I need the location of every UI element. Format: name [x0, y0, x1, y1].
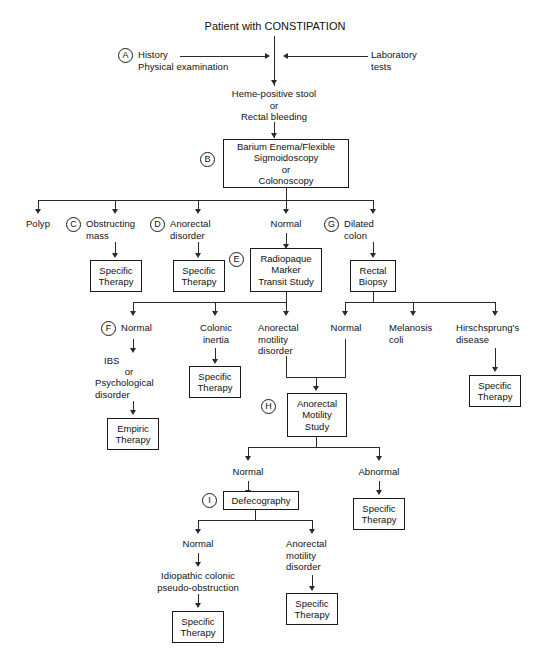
arrow-h-normal-down-icon — [245, 456, 251, 461]
node-idiopathic-colonic: Idiopathic colonic pseudo-obstruction — [138, 570, 258, 593]
arrow-idiopathic-down-icon — [195, 562, 201, 567]
box-barium-enema: Barium Enema/Flexible Sigmoidoscopy or C… — [223, 139, 349, 188]
marker-i-icon: I — [202, 493, 217, 508]
node-obstructing-mass: Obstructing mass — [86, 218, 156, 241]
arrow-c-box-down-icon — [112, 253, 118, 258]
arrow-abnormal-therapy-down-icon — [376, 490, 382, 495]
node-or: or — [114, 366, 144, 378]
node-normal-f: Normal — [121, 322, 181, 334]
node-hirschsprung: Hirschsprung's disease — [456, 322, 541, 345]
node-heme-positive: Heme-positive stool or Rectal bleeding — [209, 88, 339, 123]
arrow-idio-therapy-down-icon — [195, 603, 201, 608]
node-normal-biopsy: Normal — [317, 322, 375, 334]
marker-h-icon: H — [261, 399, 276, 414]
arrow-c-down-icon — [112, 209, 118, 214]
box-specific-therapy-c: Specific Therapy — [90, 260, 142, 292]
box-radiopaque-marker: Radiopaque Marker Transit Study — [250, 248, 322, 292]
arrow-d-down-icon — [195, 209, 201, 214]
arrow-biopsy-normal-down-icon — [342, 311, 348, 316]
node-colonic-inertia: Colonic inertia — [185, 322, 247, 345]
connector-normalbiopsy-down-merge — [345, 339, 346, 378]
box-defecography: Defecography — [223, 491, 299, 510]
arrow-i-normal-down-icon — [195, 529, 201, 534]
box-empiric-therapy: Empiric Therapy — [107, 418, 159, 450]
arrow-lab-left-icon — [283, 53, 288, 59]
connector-branch-bar-1 — [38, 200, 373, 201]
box-specific-therapy-amd: Specific Therapy — [286, 593, 338, 625]
node-anorectal-motility-disorder: Anorectal motility disorder — [258, 322, 320, 357]
marker-b-icon: B — [200, 152, 215, 167]
connector-lab-horizontal — [288, 56, 368, 57]
flowchart-canvas: Patient with CONSTIPATION A History Phys… — [0, 0, 547, 662]
node-dilated-colon: Dilated colon — [344, 218, 404, 241]
arrow-hirsch-therapy-down-icon — [492, 367, 498, 372]
arrow-g-biopsy-down-icon — [370, 253, 376, 258]
arrow-title-down-icon — [271, 80, 277, 85]
arrow-polyp-down-icon — [35, 209, 41, 214]
box-specific-therapy-abnormal: Specific Therapy — [353, 498, 405, 530]
box-specific-therapy-inertia: Specific Therapy — [189, 366, 241, 398]
node-normal-top: Normal — [256, 218, 316, 230]
connector-amd-down-merge — [286, 356, 287, 378]
node-history: History Physical examination — [138, 49, 258, 72]
arrow-i-amd-down-icon — [309, 529, 315, 534]
arrow-heme-down-icon — [271, 133, 277, 138]
marker-d-icon: D — [150, 217, 165, 232]
connector-branch-bar-5 — [198, 520, 312, 521]
box-rectal-biopsy: Rectal Biopsy — [350, 260, 396, 292]
page-title: Patient with CONSTIPATION — [180, 20, 370, 33]
arrow-f-ibs-down-icon — [130, 348, 136, 353]
node-anorectal-disorder: Anorectal disorder — [170, 218, 240, 241]
arrow-empiric-down-icon — [130, 410, 136, 415]
arrow-amd-down-icon — [283, 311, 289, 316]
arrow-hirsch-down-icon — [492, 311, 498, 316]
node-laboratory-tests: Laboratory tests — [371, 49, 451, 72]
marker-g-icon: G — [324, 217, 339, 232]
marker-a-icon: A — [118, 48, 133, 63]
arrow-d-box-down-icon — [195, 253, 201, 258]
box-specific-therapy-d: Specific Therapy — [173, 260, 225, 292]
node-anorectal-motility-disorder-i: Anorectal motility disorder — [286, 538, 348, 573]
node-ibs: IBS — [104, 355, 144, 367]
connector-branch-bar-4 — [248, 447, 379, 448]
node-abnormal-h: Abnormal — [349, 466, 409, 478]
marker-e-icon: E — [229, 252, 244, 267]
arrow-f-down-icon — [130, 311, 136, 316]
box-specific-therapy-hirsch: Specific Therapy — [469, 375, 521, 407]
arrow-melanosis-down-icon — [410, 311, 416, 316]
arrow-inertia-down-icon — [212, 311, 218, 316]
arrow-inertia-therapy-down-icon — [212, 359, 218, 364]
arrow-amdi-therapy-down-icon — [309, 586, 315, 591]
arrow-history-right-icon — [265, 53, 270, 59]
node-melanosis-coli: Melanosis coli — [389, 322, 451, 345]
marker-c-icon: C — [66, 217, 81, 232]
node-polyp: Polyp — [8, 218, 68, 230]
arrow-g-down-icon — [370, 209, 376, 214]
node-normal-i: Normal — [168, 538, 228, 550]
node-normal-h: Normal — [218, 466, 278, 478]
node-psychological-disorder: Psychological disorder — [95, 377, 175, 400]
connector-title-spine — [274, 36, 275, 86]
box-specific-therapy-idiopathic: Specific Therapy — [172, 611, 224, 643]
box-anorectal-motility-study: Anorectal Motility Study — [287, 393, 347, 437]
arrow-normal-top-down-icon — [283, 209, 289, 214]
marker-f-icon: F — [101, 321, 116, 336]
connector-history-horizontal — [180, 56, 265, 57]
connector-branch-bar-2 — [133, 302, 286, 303]
arrow-h-abnormal-down-icon — [376, 456, 382, 461]
connector-branch-bar-3 — [345, 302, 495, 303]
arrow-merge-h-down-icon — [313, 386, 319, 391]
